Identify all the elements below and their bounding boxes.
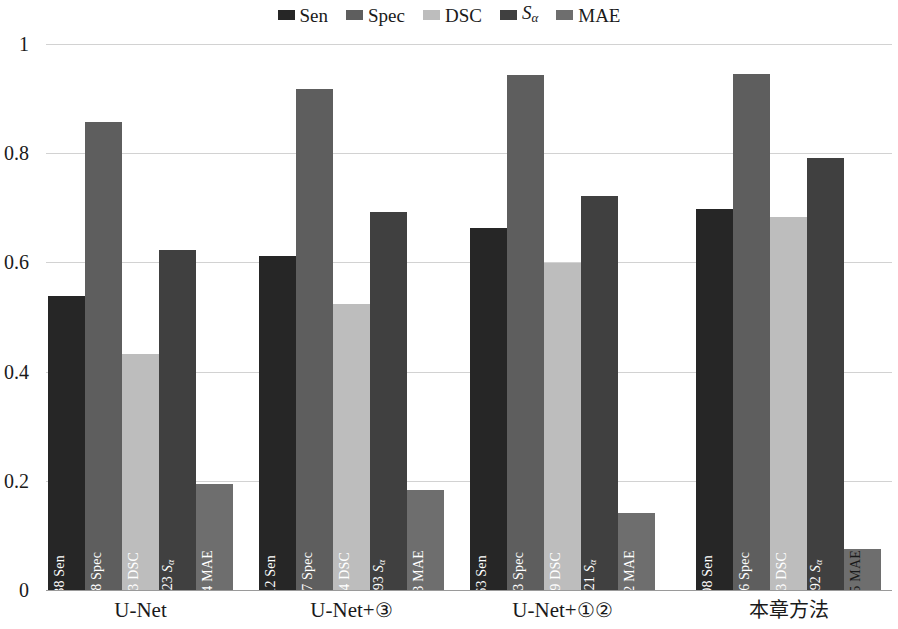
bar-value-label: 0.194 MAE xyxy=(201,550,215,590)
bar-u-net-sen[interactable]: 0.538 Sen xyxy=(48,296,85,590)
bar-value-label: 0.663 Sen xyxy=(475,555,489,590)
bar-value-label: 0.599 DSC xyxy=(549,552,563,590)
bar-u-net-plus-3-salpha[interactable]: 0.693 Sα xyxy=(370,212,407,590)
bar-value-subscript: α xyxy=(813,560,824,565)
bar-value-number: 0.623 xyxy=(160,572,175,590)
bar-value-symbol: S xyxy=(808,565,823,572)
bar-value-label: 0.943 Spec xyxy=(512,552,526,590)
bar-value-subscript: α xyxy=(376,560,387,565)
bar-proposed-mae[interactable]: 0.075 MAE xyxy=(844,549,881,590)
bar-value-symbol: S xyxy=(582,565,597,572)
gridline-0 xyxy=(46,590,892,591)
category-label-base: U-Net+ xyxy=(310,598,374,622)
bar-u-net-plus-3-spec[interactable]: 0.917 Spec xyxy=(296,89,333,590)
bar-u-net-plus-1-2-sen[interactable]: 0.663 Sen xyxy=(470,228,507,590)
bar-u-net-salpha[interactable]: 0.623 Sα xyxy=(159,250,196,590)
ytick-label-0-4: 0.4 xyxy=(0,362,38,382)
category-label-u-net-plus-3: U-Net+③ xyxy=(259,598,444,622)
category-label-base: U-Net+ xyxy=(512,598,576,622)
circled-number-3: ③ xyxy=(375,599,393,621)
circled-number-1: ① xyxy=(577,599,595,621)
bar-group-u-net-plus-3: 0.612 Sen 0.917 Spec 0.524 DSC 0.693 Sα … xyxy=(259,44,444,590)
bar-value-subscript: α xyxy=(165,560,176,565)
ytick-label-0-6: 0.6 xyxy=(0,252,38,272)
bar-chart: 1 0.8 0.6 0.4 0.2 0 0.538 Sen 0.858 Spec… xyxy=(0,0,898,629)
ytick-label-0-2: 0.2 xyxy=(0,471,38,491)
bar-proposed-salpha[interactable]: 0.792 Sα xyxy=(807,158,844,590)
bar-value-label: 0.693 Sα xyxy=(372,560,389,590)
ytick-label-1: 1 xyxy=(0,34,38,54)
bar-value-subscript: α xyxy=(587,560,598,565)
bar-proposed-sen[interactable]: 0.698 Sen xyxy=(696,209,733,590)
bar-value-label: 0.698 Sen xyxy=(701,555,715,590)
bar-proposed-dsc[interactable]: 0.683 DSC xyxy=(770,217,807,590)
bar-u-net-plus-1-2-dsc[interactable]: 0.599 DSC xyxy=(544,263,581,590)
bar-value-label: 0.612 Sen xyxy=(264,555,278,590)
bar-value-label: 0.858 Spec xyxy=(90,552,104,590)
bar-group-u-net-plus-1-2: 0.663 Sen 0.943 Spec 0.599 DSC 0.721 Sα … xyxy=(470,44,655,590)
ytick-label-0-8: 0.8 xyxy=(0,143,38,163)
chart-bars: 0.538 Sen 0.858 Spec 0.433 DSC 0.623 Sα … xyxy=(46,44,892,590)
bar-u-net-plus-3-mae[interactable]: 0.183 MAE xyxy=(407,490,444,590)
bar-value-label: 0.075 MAE xyxy=(849,550,863,590)
bar-proposed-spec[interactable]: 0.946 Spec xyxy=(733,74,770,591)
bar-value-label: 0.946 Spec xyxy=(738,552,752,590)
bar-value-number: 0.792 xyxy=(808,572,823,590)
bar-value-number: 0.721 xyxy=(582,572,597,590)
bar-value-label: 0.538 Sen xyxy=(53,555,67,590)
bar-u-net-spec[interactable]: 0.858 Spec xyxy=(85,122,122,591)
bar-group-u-net: 0.538 Sen 0.858 Spec 0.433 DSC 0.623 Sα … xyxy=(48,44,233,590)
circled-number-2: ② xyxy=(595,599,613,621)
x-axis-categories: U-Net U-Net+③ U-Net+①② 本章方法 xyxy=(46,592,892,629)
bar-value-label: 0.917 Spec xyxy=(301,552,315,590)
category-label-u-net: U-Net xyxy=(48,598,233,622)
bar-value-label: 0.721 Sα xyxy=(583,560,600,590)
bar-u-net-plus-3-dsc[interactable]: 0.524 DSC xyxy=(333,304,370,590)
bar-group-proposed-method: 0.698 Sen 0.946 Spec 0.683 DSC 0.792 Sα … xyxy=(696,44,881,590)
bar-u-net-plus-1-2-mae[interactable]: 0.142 MAE xyxy=(618,513,655,591)
bar-value-number: 0.693 xyxy=(371,572,386,590)
bar-u-net-plus-1-2-spec[interactable]: 0.943 Spec xyxy=(507,75,544,590)
bar-value-label: 0.183 MAE xyxy=(412,550,426,590)
bar-u-net-mae[interactable]: 0.194 MAE xyxy=(196,484,233,590)
category-label-u-net-plus-1-2: U-Net+①② xyxy=(470,598,655,622)
bar-value-label: 0.683 DSC xyxy=(775,552,789,590)
bar-value-label: 0.623 Sα xyxy=(161,560,178,590)
bar-u-net-plus-1-2-salpha[interactable]: 0.721 Sα xyxy=(581,196,618,590)
bar-u-net-dsc[interactable]: 0.433 DSC xyxy=(122,354,159,590)
ytick-label-0: 0 xyxy=(0,580,38,600)
bar-value-label: 0.792 Sα xyxy=(809,560,826,590)
category-label-proposed-method: 本章方法 xyxy=(696,598,881,622)
bar-value-label: 0.433 DSC xyxy=(127,552,141,590)
bar-value-symbol: S xyxy=(371,565,386,572)
bar-u-net-plus-3-sen[interactable]: 0.612 Sen xyxy=(259,256,296,590)
bar-value-label: 0.142 MAE xyxy=(623,550,637,590)
bar-value-label: 0.524 DSC xyxy=(338,552,352,590)
bar-value-symbol: S xyxy=(160,565,175,572)
